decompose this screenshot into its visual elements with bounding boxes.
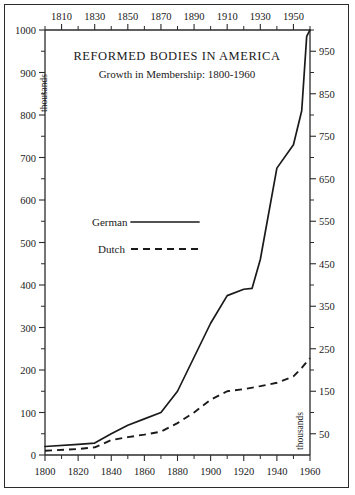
- y-tick-label-right: 650: [319, 174, 335, 185]
- y-tick-label-left: 200: [20, 365, 36, 376]
- x-tick-label-bottom: 1820: [68, 466, 89, 477]
- tick-labels-group: 1800182018401860188019001920194019601810…: [15, 11, 335, 477]
- axes-group: [39, 24, 316, 461]
- x-tick-label-bottom: 1800: [35, 466, 56, 477]
- data-series-group: [45, 30, 310, 451]
- x-tick-label-bottom: 1940: [266, 466, 287, 477]
- y-tick-label-right: 550: [319, 216, 335, 227]
- y-tick-label-left: 800: [20, 110, 36, 121]
- x-tick-label-bottom: 1840: [101, 466, 122, 477]
- y-tick-label-right: 750: [319, 131, 335, 142]
- reformed-bodies-line-chart: 1800182018401860188019001920194019601810…: [0, 0, 355, 495]
- y-tick-label-right: 450: [319, 259, 335, 270]
- y-tick-label-left: 700: [20, 153, 36, 164]
- x-tick-label-top: 1950: [283, 11, 304, 22]
- legend-label-dutch: Dutch: [98, 243, 125, 255]
- x-tick-label-top: 1810: [51, 11, 72, 22]
- y-tick-label-right: 850: [319, 89, 335, 100]
- x-tick-label-bottom: 1880: [167, 466, 188, 477]
- y-tick-label-left: 500: [20, 238, 36, 249]
- chart-subtitle: Growth in Membership: 1800-1960: [99, 68, 256, 80]
- y-tick-label-right: 150: [319, 386, 335, 397]
- chart-title: REFORMED BODIES IN AMERICA: [73, 49, 280, 63]
- x-tick-label-bottom: 1960: [300, 466, 321, 477]
- y-tick-label-right: 50: [319, 429, 330, 440]
- y-tick-label-left: 1000: [15, 25, 36, 36]
- x-tick-label-top: 1870: [150, 11, 171, 22]
- y-tick-label-left: 300: [20, 323, 36, 334]
- y-tick-label-left: 600: [20, 195, 36, 206]
- chart-figure: 1800182018401860188019001920194019601810…: [0, 0, 355, 495]
- legend-label-german: German: [92, 216, 128, 228]
- x-tick-label-bottom: 1860: [134, 466, 155, 477]
- series-line-dutch: [45, 358, 310, 451]
- y-tick-label-right: 350: [319, 301, 335, 312]
- x-tick-label-top: 1850: [117, 11, 138, 22]
- y-tick-label-left: 400: [20, 280, 36, 291]
- x-tick-label-top: 1930: [250, 11, 271, 22]
- y-tick-label-left: 0: [31, 450, 36, 461]
- left-axis-label: thousands: [39, 74, 49, 112]
- y-tick-label-right: 250: [319, 344, 335, 355]
- right-axis-label: thousands: [295, 412, 305, 450]
- x-tick-label-top: 1830: [84, 11, 105, 22]
- y-tick-label-left: 900: [20, 68, 36, 79]
- y-tick-label-right: 950: [319, 46, 335, 57]
- x-tick-label-bottom: 1920: [233, 466, 254, 477]
- series-line-german: [45, 30, 310, 447]
- x-tick-label-top: 1890: [184, 11, 205, 22]
- x-tick-label-top: 1910: [217, 11, 238, 22]
- x-tick-label-bottom: 1900: [200, 466, 221, 477]
- y-tick-label-left: 100: [20, 408, 36, 419]
